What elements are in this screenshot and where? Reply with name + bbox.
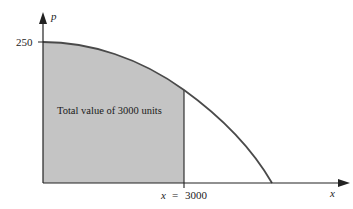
x-marker-value: 3000: [185, 189, 208, 201]
demand-curve-chart: p 250 x Total value of 3000 units x = 30…: [0, 0, 353, 209]
y-axis-label: p: [50, 10, 57, 22]
y-axis-arrow-icon: [39, 12, 47, 24]
y-tick-label-250: 250: [16, 36, 33, 48]
x-axis-label: x: [329, 187, 335, 199]
shaded-area-annotation: Total value of 3000 units: [57, 105, 162, 116]
x-axis-arrow-icon: [338, 179, 350, 187]
x-marker-equals: =: [172, 189, 178, 201]
x-marker-var: x: [160, 189, 166, 201]
